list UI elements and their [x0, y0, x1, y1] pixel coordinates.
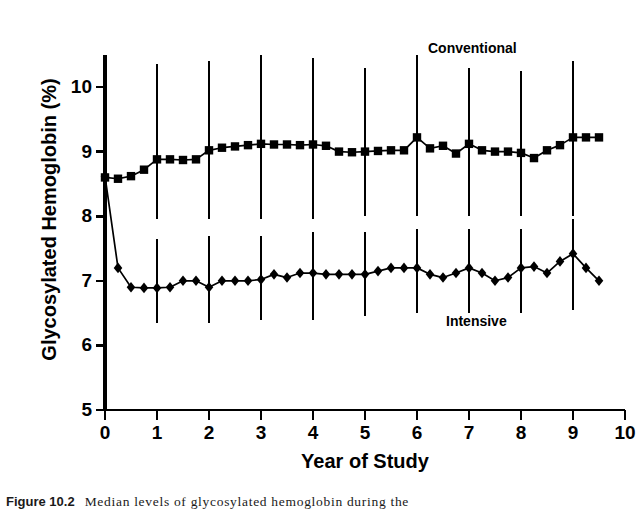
- data-point-intensive: [179, 276, 188, 287]
- data-point-conventional: [114, 175, 122, 183]
- data-point-conventional: [569, 133, 577, 141]
- data-point-conventional: [387, 146, 395, 154]
- data-point-conventional: [491, 147, 499, 155]
- data-point-conventional: [348, 148, 356, 156]
- data-point-intensive: [231, 276, 240, 287]
- x-axis-title: Year of Study: [105, 450, 625, 473]
- data-point-intensive: [257, 274, 266, 285]
- data-point-conventional: [400, 146, 408, 154]
- x-axis-tick-label: 1: [137, 423, 177, 442]
- data-point-intensive: [244, 276, 253, 287]
- x-axis-tick-label: 8: [501, 423, 541, 442]
- data-point-conventional: [439, 142, 447, 150]
- chart-plot-area: Glycosylated Hemoglobin (%) Year of Stud…: [0, 0, 640, 470]
- data-point-conventional: [296, 141, 304, 149]
- data-point-conventional: [205, 146, 213, 154]
- data-point-conventional: [465, 140, 473, 148]
- x-axis-tick-label: 4: [293, 423, 333, 442]
- data-point-conventional: [413, 133, 421, 141]
- x-axis-tick-label: 10: [605, 423, 640, 442]
- data-point-intensive: [322, 269, 331, 280]
- y-axis-tick-label: 6: [58, 335, 92, 354]
- x-axis-tick-label: 3: [241, 423, 281, 442]
- data-point-intensive: [400, 263, 409, 274]
- y-axis-tick-label: 10: [58, 77, 92, 96]
- y-axis-tick-label: 5: [58, 400, 92, 419]
- data-point-conventional: [374, 147, 382, 155]
- data-point-conventional: [179, 156, 187, 164]
- data-point-conventional: [166, 155, 174, 163]
- data-point-conventional: [283, 140, 291, 148]
- figure-caption-text: Median levels of glycosylated hemoglobin…: [85, 494, 409, 509]
- y-axis-tick-label: 7: [58, 271, 92, 290]
- data-point-conventional: [452, 149, 460, 157]
- data-point-intensive: [426, 269, 435, 280]
- data-point-intensive: [166, 282, 175, 293]
- data-point-conventional: [595, 133, 603, 141]
- data-point-intensive: [140, 283, 149, 294]
- data-point-intensive: [491, 276, 500, 287]
- data-point-conventional: [257, 140, 265, 148]
- figure-glycosylated-hemoglobin: Glycosylated Hemoglobin (%) Year of Stud…: [0, 0, 640, 512]
- data-point-conventional: [530, 154, 538, 162]
- x-axis-tick-label: 2: [189, 423, 229, 442]
- data-point-conventional: [127, 172, 135, 180]
- data-point-intensive: [205, 282, 214, 293]
- data-point-conventional: [270, 140, 278, 148]
- data-point-intensive: [309, 268, 318, 279]
- data-point-intensive: [153, 283, 162, 294]
- data-point-conventional: [309, 140, 317, 148]
- data-point-conventional: [153, 155, 161, 163]
- chart-canvas: [0, 0, 640, 470]
- data-point-intensive: [218, 276, 227, 287]
- data-point-conventional: [361, 147, 369, 155]
- x-axis-tick-label: 0: [85, 423, 125, 442]
- data-point-conventional: [322, 142, 330, 150]
- data-point-conventional: [582, 133, 590, 141]
- data-point-intensive: [439, 272, 448, 283]
- data-point-intensive: [478, 268, 487, 279]
- data-point-intensive: [348, 269, 357, 280]
- data-point-intensive: [296, 268, 305, 279]
- series-label-intensive: Intensive: [446, 313, 507, 329]
- data-point-conventional: [478, 146, 486, 154]
- data-point-intensive: [270, 269, 279, 280]
- data-point-conventional: [556, 141, 564, 149]
- axis-lines: [96, 55, 625, 420]
- x-axis-tick-label: 5: [345, 423, 385, 442]
- data-point-conventional: [517, 149, 525, 157]
- data-point-conventional: [218, 144, 226, 152]
- data-point-conventional: [543, 146, 551, 154]
- y-axis-tick-label: 9: [58, 142, 92, 161]
- data-point-intensive: [517, 263, 526, 274]
- data-point-intensive: [192, 276, 201, 287]
- data-point-intensive: [283, 272, 292, 283]
- x-axis-tick-label: 7: [449, 423, 489, 442]
- x-axis-tick-label: 6: [397, 423, 437, 442]
- data-point-intensive: [504, 272, 513, 283]
- data-point-conventional: [192, 155, 200, 163]
- figure-caption: Figure 10.2Median levels of glycosylated…: [6, 493, 640, 510]
- data-point-intensive: [452, 268, 461, 279]
- data-point-conventional: [426, 144, 434, 152]
- data-point-intensive: [387, 263, 396, 274]
- series-markers-group: [101, 133, 604, 293]
- data-point-intensive: [335, 269, 344, 280]
- data-point-conventional: [335, 147, 343, 155]
- data-point-intensive: [374, 266, 383, 277]
- data-point-conventional: [231, 142, 239, 150]
- data-point-intensive: [413, 263, 422, 274]
- series-label-conventional: Conventional: [428, 40, 517, 56]
- data-point-conventional: [244, 141, 252, 149]
- data-point-intensive: [465, 263, 474, 274]
- data-point-intensive: [530, 261, 539, 272]
- x-axis-tick-label: 9: [553, 423, 593, 442]
- data-point-conventional: [504, 147, 512, 155]
- data-point-conventional: [140, 165, 148, 173]
- figure-caption-label: Figure 10.2: [6, 494, 75, 509]
- y-axis-tick-label: 8: [58, 206, 92, 225]
- data-point-intensive: [361, 269, 370, 280]
